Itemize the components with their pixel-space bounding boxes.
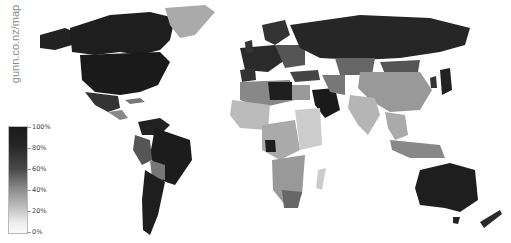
region-usa <box>80 52 170 95</box>
region-libya <box>268 82 292 100</box>
region-canada <box>70 12 175 55</box>
region-indonesia <box>390 140 445 158</box>
region-mongolia <box>380 60 420 74</box>
region-central-america <box>108 110 128 120</box>
legend-tick <box>27 148 31 149</box>
legend-label-60: 60% <box>32 165 46 173</box>
legend-label-20: 20% <box>32 207 46 215</box>
legend-tick <box>27 127 31 128</box>
region-mexico <box>85 92 120 112</box>
region-korea <box>430 76 437 88</box>
legend-label-40: 40% <box>32 186 46 194</box>
region-caribbean <box>125 98 145 104</box>
legend-label-80: 80% <box>32 144 46 152</box>
region-japan <box>440 68 452 95</box>
region-australia <box>415 163 478 212</box>
region-peru <box>133 135 152 165</box>
region-india <box>348 95 380 135</box>
region-southeast-asia <box>385 112 408 140</box>
legend-tick <box>27 211 31 212</box>
region-greenland <box>165 5 215 38</box>
legend-tick <box>27 232 31 233</box>
region-madagascar <box>316 168 326 190</box>
legend-tick <box>27 169 31 170</box>
region-gabon <box>265 140 276 152</box>
region-south-africa <box>282 190 302 208</box>
region-russia <box>290 15 470 60</box>
region-tasmania <box>453 217 460 224</box>
legend-tick <box>27 190 31 191</box>
region-uk <box>245 40 253 54</box>
region-new-zealand <box>480 210 502 228</box>
world-map <box>0 0 511 243</box>
legend-colorbar <box>8 126 28 234</box>
legend-label-0: 0% <box>32 228 42 236</box>
region-alaska <box>40 28 75 50</box>
region-egypt <box>292 85 310 100</box>
region-iberia <box>240 68 256 82</box>
region-turkey <box>290 70 320 82</box>
region-east-africa <box>295 108 322 150</box>
region-scandinavia <box>262 20 290 45</box>
legend-label-100: 100% <box>32 123 51 131</box>
